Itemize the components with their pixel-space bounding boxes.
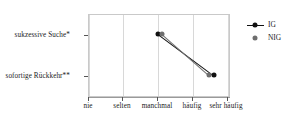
x-axis-label-selten: selten bbox=[113, 102, 130, 110]
y-axis-label-sofortige-rueckkehr: sofortige Rückkehr** bbox=[6, 72, 70, 80]
chart-figure: sukzessive Suche* sofortige Rückkehr** n… bbox=[0, 0, 306, 119]
data-point-nig bbox=[207, 73, 212, 78]
gridline-vertical bbox=[123, 15, 124, 96]
x-axis-tick bbox=[122, 97, 123, 101]
x-axis-label-sehr-haeufig: sehr häufig bbox=[209, 102, 242, 110]
x-axis-label-manchmal: manchmal bbox=[142, 102, 173, 110]
x-axis-tick bbox=[192, 97, 193, 101]
data-point-ig bbox=[211, 73, 216, 78]
gridline-vertical bbox=[193, 15, 194, 96]
x-axis-tick bbox=[88, 97, 89, 101]
x-axis-tick bbox=[227, 97, 228, 101]
legend-item-nig[interactable]: NIG bbox=[247, 31, 303, 44]
legend-dot-ig bbox=[253, 22, 258, 27]
gridline-vertical bbox=[89, 15, 90, 96]
legend-marker-nig bbox=[247, 33, 264, 43]
x-axis-label-nie: nie bbox=[83, 102, 92, 110]
plot-panel bbox=[88, 14, 230, 97]
x-axis-line bbox=[88, 97, 230, 98]
y-axis-tick bbox=[84, 76, 88, 77]
legend-label-nig: NIG bbox=[264, 33, 281, 42]
y-axis-label-sukzessive-suche: sukzessive Suche* bbox=[15, 31, 70, 39]
data-point-nig bbox=[159, 31, 164, 36]
gridline-vertical bbox=[228, 15, 229, 96]
x-axis-tick bbox=[157, 97, 158, 101]
gridline-vertical bbox=[158, 15, 159, 96]
legend-dot-nig bbox=[253, 35, 258, 40]
legend-label-ig: IG bbox=[264, 20, 276, 29]
legend-item-ig[interactable]: IG bbox=[247, 18, 303, 31]
x-axis-label-haeufig: häufig bbox=[183, 102, 202, 110]
legend-marker-ig bbox=[247, 20, 264, 30]
y-axis-tick bbox=[84, 35, 88, 36]
legend: IG NIG bbox=[247, 18, 303, 44]
series-line-nig bbox=[161, 34, 209, 76]
